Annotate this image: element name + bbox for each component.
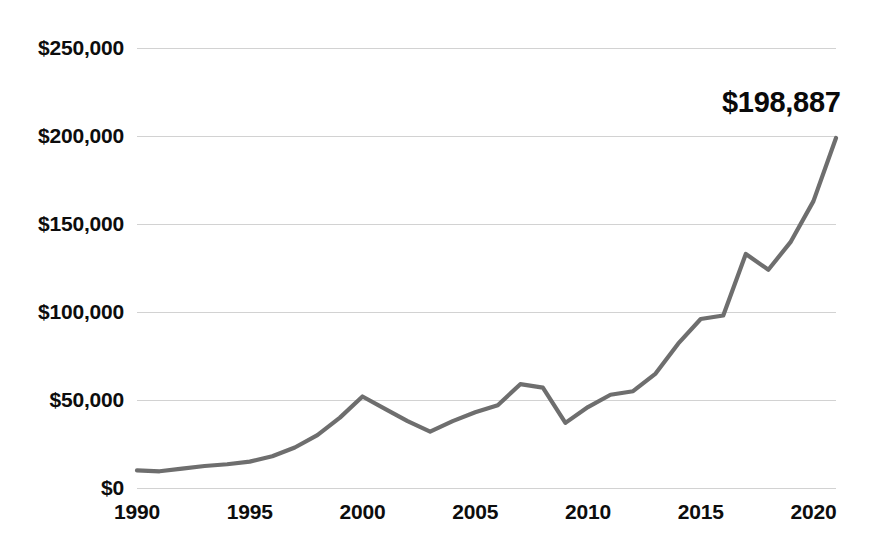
data-series — [137, 138, 836, 471]
x-tick-label: 2005 — [430, 500, 520, 524]
y-tick-label: $250,000 — [0, 36, 124, 60]
x-tick-label: 2020 — [768, 500, 858, 524]
x-tick-label: 2015 — [656, 500, 746, 524]
line-chart: $0$50,000$100,000$150,000$200,000$250,00… — [0, 0, 878, 558]
y-tick-label: $150,000 — [0, 212, 124, 236]
x-tick-label: 1990 — [92, 500, 182, 524]
y-tick-label: $200,000 — [0, 124, 124, 148]
y-tick-label: $0 — [0, 476, 124, 500]
end-value-annotation: $198,887 — [722, 86, 841, 119]
y-tick-label: $50,000 — [0, 388, 124, 412]
x-tick-label: 1995 — [205, 500, 295, 524]
x-tick-label: 2000 — [317, 500, 407, 524]
plot-area — [0, 0, 878, 558]
y-tick-label: $100,000 — [0, 300, 124, 324]
series-line — [137, 138, 836, 471]
x-tick-label: 2010 — [543, 500, 633, 524]
